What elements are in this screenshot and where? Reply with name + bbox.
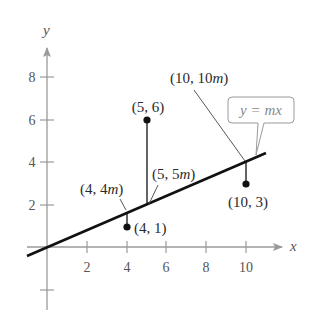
x-axis-label: x — [289, 238, 297, 254]
callout-label: y = mx — [238, 102, 282, 118]
x-tick-label: 8 — [203, 260, 210, 275]
x-tick-label: 6 — [163, 260, 170, 275]
label-line-point-5-5m: (5, 5m) — [152, 166, 195, 183]
y-axis-label: y — [41, 22, 50, 38]
x-tick-label: 4 — [124, 260, 131, 275]
y-tick-label: 2 — [29, 198, 36, 213]
y-tick-label: 6 — [29, 113, 36, 128]
label-line-point-10-10m: (10, 10m) — [170, 70, 228, 87]
point-10-3 — [242, 180, 249, 187]
point-4-1 — [123, 223, 130, 230]
y-tick-label: 4 — [29, 155, 36, 170]
label-point-5-6: (5, 6) — [132, 99, 165, 116]
label-point-4-1: (4, 1) — [134, 220, 167, 237]
callout-line-equation: y = mx — [228, 97, 294, 155]
x-tick-label: 10 — [239, 260, 253, 275]
y-tick-label: 8 — [29, 70, 36, 85]
label-line-point-4-4m: (4, 4m) — [80, 181, 123, 198]
least-squares-figure: 2 4 6 8 10 8 6 4 2 x y (5, 6) (4, 1) (10… — [0, 0, 321, 320]
label-point-10-3: (10, 3) — [228, 194, 268, 211]
x-tick-label: 2 — [84, 260, 91, 275]
leader-line-4-4m — [120, 199, 126, 210]
point-5-6 — [143, 116, 150, 123]
